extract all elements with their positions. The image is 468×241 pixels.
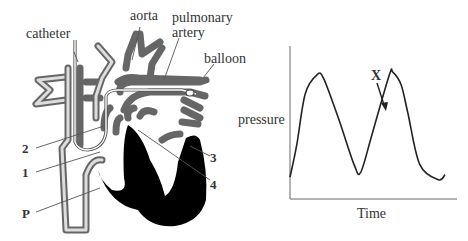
- label-4: 4: [210, 177, 217, 192]
- pressure-chart: X pressure Time: [238, 46, 457, 221]
- label-balloon: balloon: [204, 51, 246, 66]
- pulmonary-artery: [120, 80, 206, 124]
- pressure-curve: [290, 69, 445, 180]
- x-axis-label: Time: [357, 206, 386, 221]
- label-aorta: aorta: [130, 8, 159, 23]
- label-pulmonary: pulmonary: [172, 10, 233, 25]
- y-axis-label: pressure: [238, 112, 285, 127]
- heart-diagram: catheter aorta pulmonary artery balloon …: [22, 8, 246, 230]
- valves: [104, 108, 180, 140]
- label-3: 3: [210, 150, 217, 165]
- x-arrow-head: [381, 102, 388, 111]
- label-catheter: catheter: [26, 26, 71, 41]
- figure: catheter aorta pulmonary artery balloon …: [0, 0, 468, 241]
- label-1: 1: [22, 165, 29, 180]
- label-2: 2: [22, 141, 29, 156]
- label-p: P: [22, 206, 30, 221]
- label-artery: artery: [172, 25, 205, 40]
- balloon: [186, 90, 194, 96]
- label-x: X: [371, 68, 381, 83]
